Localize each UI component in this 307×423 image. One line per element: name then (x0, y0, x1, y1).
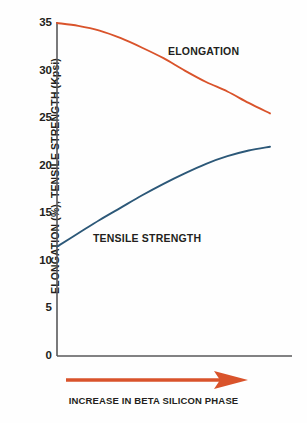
series-line-elongation (57, 23, 270, 113)
chart-figure: ELONGATION (%), TENSILE STRENGTH (Kpsi) … (0, 0, 307, 423)
right-arrow-icon (66, 371, 248, 389)
series-label-elongation: ELONGATION (168, 45, 239, 57)
x-axis-caption: INCREASE IN BETA SILICON PHASE (0, 395, 307, 406)
series-label-tensile-strength: TENSILE STRENGTH (93, 232, 201, 244)
plot-area (0, 0, 307, 423)
